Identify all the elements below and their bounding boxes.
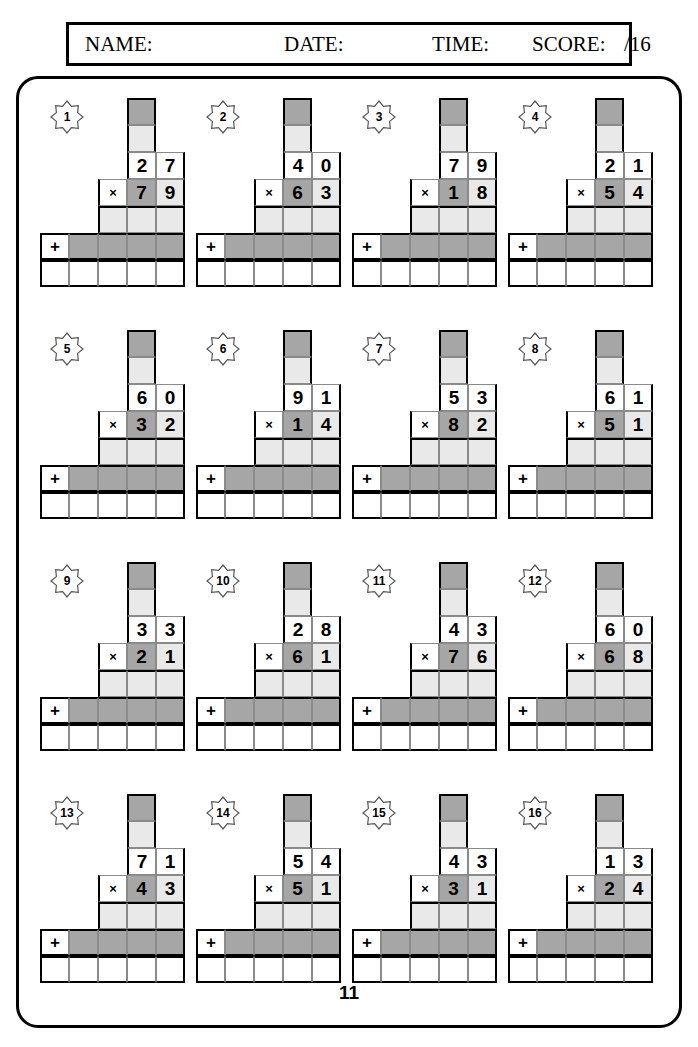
partial-product-cell[interactable]: [537, 697, 566, 724]
partial-product-cell[interactable]: [254, 697, 283, 724]
partial-product-cell[interactable]: [127, 929, 156, 956]
partial-product-cell[interactable]: [98, 902, 127, 929]
multiplicand-ones-digit[interactable]: 1: [624, 384, 653, 411]
partial-product-cell[interactable]: [381, 233, 410, 260]
carry-box-upper[interactable]: [283, 330, 312, 357]
answer-cell[interactable]: [624, 724, 653, 751]
partial-product-cell[interactable]: [312, 465, 341, 492]
multiplier-ones-digit[interactable]: 2: [468, 411, 497, 438]
partial-product-cell[interactable]: [127, 902, 156, 929]
multiplier-tens-digit[interactable]: 1: [283, 411, 312, 438]
partial-product-cell[interactable]: [566, 438, 595, 465]
partial-product-cell[interactable]: [127, 233, 156, 260]
partial-product-cell[interactable]: [566, 206, 595, 233]
partial-product-cell[interactable]: [156, 670, 185, 697]
partial-product-cell[interactable]: [410, 670, 439, 697]
answer-cell[interactable]: [312, 260, 341, 287]
answer-cell[interactable]: [196, 492, 225, 519]
multiplicand-ones-digit[interactable]: 3: [468, 616, 497, 643]
carry-box-lower[interactable]: [127, 357, 156, 384]
multiplier-ones-digit[interactable]: 1: [156, 643, 185, 670]
partial-product-cell[interactable]: [254, 206, 283, 233]
multiplicand-tens-digit[interactable]: 5: [283, 848, 312, 875]
answer-cell[interactable]: [624, 956, 653, 983]
partial-product-cell[interactable]: [624, 902, 653, 929]
partial-product-cell[interactable]: [624, 465, 653, 492]
answer-cell[interactable]: [283, 724, 312, 751]
answer-cell[interactable]: [352, 260, 381, 287]
carry-box-lower[interactable]: [127, 125, 156, 152]
partial-product-cell[interactable]: [283, 206, 312, 233]
partial-product-cell[interactable]: [537, 929, 566, 956]
partial-product-cell[interactable]: [283, 902, 312, 929]
partial-product-cell[interactable]: [595, 465, 624, 492]
partial-product-cell[interactable]: [254, 902, 283, 929]
answer-cell[interactable]: [439, 724, 468, 751]
multiplicand-ones-digit[interactable]: 0: [312, 152, 341, 179]
partial-product-cell[interactable]: [69, 465, 98, 492]
partial-product-cell[interactable]: [156, 465, 185, 492]
answer-cell[interactable]: [225, 724, 254, 751]
partial-product-cell[interactable]: [624, 438, 653, 465]
answer-cell[interactable]: [98, 724, 127, 751]
partial-product-cell[interactable]: [225, 465, 254, 492]
answer-cell[interactable]: [98, 260, 127, 287]
multiplicand-tens-digit[interactable]: 7: [127, 848, 156, 875]
partial-product-cell[interactable]: [410, 902, 439, 929]
partial-product-cell[interactable]: [254, 929, 283, 956]
answer-cell[interactable]: [254, 492, 283, 519]
partial-product-cell[interactable]: [381, 929, 410, 956]
partial-product-cell[interactable]: [98, 438, 127, 465]
partial-product-cell[interactable]: [283, 438, 312, 465]
partial-product-cell[interactable]: [566, 233, 595, 260]
answer-cell[interactable]: [468, 956, 497, 983]
answer-cell[interactable]: [468, 724, 497, 751]
partial-product-cell[interactable]: [410, 233, 439, 260]
multiplicand-tens-digit[interactable]: 4: [439, 848, 468, 875]
partial-product-cell[interactable]: [254, 670, 283, 697]
answer-cell[interactable]: [537, 492, 566, 519]
multiplicand-tens-digit[interactable]: 6: [127, 384, 156, 411]
answer-cell[interactable]: [283, 260, 312, 287]
multiplicand-ones-digit[interactable]: 0: [624, 616, 653, 643]
answer-cell[interactable]: [566, 260, 595, 287]
partial-product-cell[interactable]: [439, 902, 468, 929]
partial-product-cell[interactable]: [312, 697, 341, 724]
multiplicand-ones-digit[interactable]: 4: [312, 848, 341, 875]
multiplicand-ones-digit[interactable]: 1: [156, 848, 185, 875]
partial-product-cell[interactable]: [468, 438, 497, 465]
answer-cell[interactable]: [69, 492, 98, 519]
partial-product-cell[interactable]: [410, 438, 439, 465]
answer-cell[interactable]: [283, 492, 312, 519]
multiplicand-tens-digit[interactable]: 4: [439, 616, 468, 643]
multiplicand-ones-digit[interactable]: 3: [624, 848, 653, 875]
partial-product-cell[interactable]: [127, 697, 156, 724]
answer-cell[interactable]: [40, 492, 69, 519]
partial-product-cell[interactable]: [225, 697, 254, 724]
answer-cell[interactable]: [381, 260, 410, 287]
answer-cell[interactable]: [156, 492, 185, 519]
answer-cell[interactable]: [127, 492, 156, 519]
partial-product-cell[interactable]: [410, 697, 439, 724]
carry-box-upper[interactable]: [283, 98, 312, 125]
multiplier-tens-digit[interactable]: 5: [283, 875, 312, 902]
carry-box-lower[interactable]: [283, 357, 312, 384]
multiplicand-tens-digit[interactable]: 6: [595, 616, 624, 643]
answer-cell[interactable]: [595, 260, 624, 287]
multiplier-ones-digit[interactable]: 1: [624, 411, 653, 438]
multiplicand-tens-digit[interactable]: 3: [127, 616, 156, 643]
partial-product-cell[interactable]: [439, 929, 468, 956]
partial-product-cell[interactable]: [381, 697, 410, 724]
partial-product-cell[interactable]: [410, 465, 439, 492]
answer-cell[interactable]: [381, 492, 410, 519]
carry-box-lower[interactable]: [595, 821, 624, 848]
answer-cell[interactable]: [410, 956, 439, 983]
answer-cell[interactable]: [566, 492, 595, 519]
multiplier-tens-digit[interactable]: 5: [595, 411, 624, 438]
partial-product-cell[interactable]: [624, 697, 653, 724]
answer-cell[interactable]: [196, 260, 225, 287]
answer-cell[interactable]: [537, 260, 566, 287]
answer-cell[interactable]: [254, 956, 283, 983]
partial-product-cell[interactable]: [312, 233, 341, 260]
answer-cell[interactable]: [508, 492, 537, 519]
